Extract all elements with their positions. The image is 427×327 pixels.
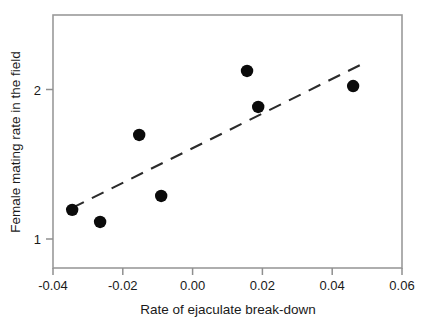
- y-tick-label: 1: [34, 232, 41, 247]
- x-tick-label: -0.04: [38, 278, 68, 293]
- data-point: [347, 80, 359, 92]
- x-tick-label: -0.02: [108, 278, 138, 293]
- plot-frame: [53, 15, 402, 268]
- x-tick-label: 0.02: [250, 278, 275, 293]
- trend-line: [72, 63, 363, 208]
- x-axis-tick-labels: -0.04 -0.02 0.00 0.02 0.04 0.06: [38, 278, 414, 293]
- data-point: [252, 101, 264, 113]
- data-points: [66, 65, 359, 228]
- y-axis-ticks: [46, 90, 53, 240]
- y-tick-label: 2: [34, 83, 41, 98]
- data-point: [241, 65, 253, 77]
- data-point: [66, 204, 78, 216]
- y-axis-tick-labels: 2 1: [34, 83, 41, 248]
- x-axis-title: Rate of ejaculate break-down: [140, 302, 316, 317]
- x-tick-label: 0.06: [389, 278, 414, 293]
- scatter-plot: -0.04 -0.02 0.00 0.02 0.04 0.06 2 1 Rate…: [0, 0, 427, 327]
- data-point: [155, 190, 167, 202]
- data-point: [94, 216, 106, 228]
- chart-figure: -0.04 -0.02 0.00 0.02 0.04 0.06 2 1 Rate…: [0, 0, 427, 327]
- data-point: [133, 129, 145, 141]
- y-axis-title: Female mating rate in the field: [8, 51, 23, 233]
- x-tick-label: 0.04: [320, 278, 345, 293]
- x-axis-ticks: [53, 268, 402, 275]
- x-tick-label: 0.00: [180, 278, 205, 293]
